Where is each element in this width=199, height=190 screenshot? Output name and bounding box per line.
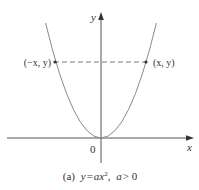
origin-label: 0 [90,143,96,155]
x-axis-arrow-icon [186,135,194,141]
point-right-label: (x, y) [153,57,175,69]
y-axis-label: y [90,11,96,23]
caption-eq-equals: = [87,170,93,182]
caption-eq-y: y [80,170,86,182]
point-left-label: (−x, y) [24,57,51,69]
caption-cond-rel: > 0 [123,170,138,182]
point-right [144,60,147,63]
caption-prefix: (a) [63,170,76,183]
y-axis-arrow-icon [98,12,104,20]
point-left [53,60,56,63]
figure-caption: (a) y=ax2, a> 0 [63,170,138,183]
caption-cond-a: a [116,170,122,182]
x-axis-label: x [186,141,192,153]
caption-sep: , [108,170,111,182]
parabola-figure: (−x, y) (x, y) y x 0 (a) y=ax2, a> 0 [0,0,199,190]
